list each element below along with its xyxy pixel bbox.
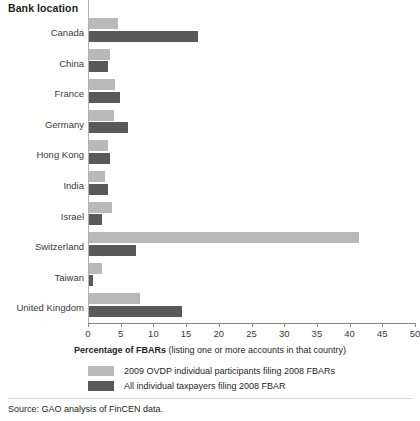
category-label: Israel	[0, 211, 84, 222]
legend-item: All individual taxpayers filing 2008 FBA…	[88, 378, 418, 393]
value-axis-caption-main: Percentage of FBARs	[74, 345, 166, 355]
bar	[88, 31, 198, 42]
axis-tick	[219, 323, 220, 327]
bar	[88, 49, 110, 60]
legend-label: All individual taxpayers filing 2008 FBA…	[124, 381, 286, 391]
axis-tick-label: 40	[344, 328, 355, 339]
bar	[88, 92, 120, 103]
category-label: United Kingdom	[0, 302, 84, 313]
axis-tick-label: 10	[148, 328, 159, 339]
bar	[88, 171, 105, 182]
bars-container	[88, 17, 415, 323]
axis-tick	[382, 323, 383, 327]
category-label: Germany	[0, 119, 84, 130]
category-label: Canada	[0, 27, 84, 38]
bar	[88, 245, 136, 256]
axis-tick-label: 0	[85, 328, 90, 339]
bar	[88, 232, 359, 243]
bar	[88, 214, 102, 225]
axis-tick	[88, 323, 89, 327]
bar	[88, 110, 114, 121]
bar	[88, 153, 110, 164]
category-label: Switzerland	[0, 241, 84, 252]
value-axis-origin-line	[88, 0, 89, 323]
bar	[88, 293, 140, 304]
category-label: China	[0, 58, 84, 69]
axis-tick	[284, 323, 285, 327]
chart-legend: 2009 OVDP individual participants filing…	[88, 363, 418, 393]
axis-tick	[317, 323, 318, 327]
bar	[88, 18, 118, 29]
bar	[88, 140, 108, 151]
category-label: France	[0, 88, 84, 99]
bar	[88, 263, 102, 274]
legend-label: 2009 OVDP individual participants filing…	[124, 366, 335, 376]
chart-title: Bank location	[8, 2, 78, 14]
legend-item: 2009 OVDP individual participants filing…	[88, 363, 418, 378]
plot-area: CanadaChinaFranceGermanyHong KongIndiaIs…	[0, 17, 420, 327]
source-divider	[8, 398, 412, 399]
value-axis-caption: Percentage of FBARs (listing one or more…	[0, 345, 420, 355]
category-label: Taiwan	[0, 272, 84, 283]
source-note: Source: GAO analysis of FinCEN data.	[8, 404, 163, 414]
bar	[88, 306, 182, 317]
category-axis-labels: CanadaChinaFranceGermanyHong KongIndiaIs…	[0, 17, 84, 323]
axis-tick	[186, 323, 187, 327]
axis-tick-label: 30	[279, 328, 290, 339]
value-axis-caption-sub: (listing one or more accounts in that co…	[166, 345, 346, 355]
axis-tick	[121, 323, 122, 327]
axis-tick-label: 15	[181, 328, 192, 339]
axis-tick	[252, 323, 253, 327]
axis-tick-label: 35	[312, 328, 323, 339]
axis-tick	[415, 323, 416, 327]
axis-tick-label: 50	[410, 328, 420, 339]
legend-swatch	[88, 366, 114, 376]
bar	[88, 184, 108, 195]
category-label: India	[0, 180, 84, 191]
axis-tick	[153, 323, 154, 327]
legend-swatch	[88, 381, 114, 391]
axis-tick-label: 25	[246, 328, 257, 339]
bar	[88, 61, 108, 72]
category-label: Hong Kong	[0, 149, 84, 160]
bar	[88, 79, 115, 90]
chart-figure: Bank location CanadaChinaFranceGermanyHo…	[0, 0, 420, 421]
axis-tick-label: 5	[118, 328, 123, 339]
axis-tick-label: 20	[214, 328, 225, 339]
bar	[88, 202, 112, 213]
axis-tick-label: 45	[377, 328, 388, 339]
axis-tick	[350, 323, 351, 327]
bar	[88, 122, 128, 133]
